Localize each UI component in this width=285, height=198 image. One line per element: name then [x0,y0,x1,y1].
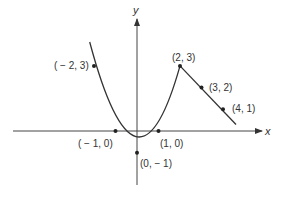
point-label: ( − 2, 3) [54,60,89,71]
point-marker [157,129,161,133]
point-marker [221,107,225,111]
point-label: (2, 3) [172,52,195,63]
y-axis-label: y [132,4,140,16]
point-marker [200,86,204,90]
point-label: (4, 1) [232,103,255,114]
point-label: (1, 0) [160,138,183,149]
point-marker [92,64,96,68]
function-graph: y x ( − 2, 3) ( − 1, 0) (0, − 1) (1, 0) … [0,0,285,198]
x-axis-label: x [264,125,271,137]
line-segment [180,66,236,125]
point-label: ( − 1, 0) [78,138,113,149]
point-label: (0, − 1) [140,158,172,169]
point-label: (3, 2) [209,82,232,93]
point-marker [114,129,118,133]
parabola-curve [90,42,180,137]
point-marker [178,64,182,68]
graph-canvas: y x ( − 2, 3) ( − 1, 0) (0, − 1) (1, 0) … [0,0,285,198]
point-marker [135,151,139,155]
